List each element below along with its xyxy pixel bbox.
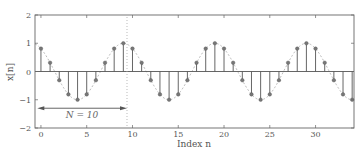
stem-marker	[176, 93, 180, 97]
stem-marker	[195, 61, 199, 65]
period-label: N = 10	[65, 110, 99, 120]
y-tick-label: −2	[19, 124, 31, 133]
stem-marker	[341, 93, 345, 97]
x-tick-label: 15	[173, 130, 183, 139]
stem-marker	[222, 47, 226, 51]
x-tick-label: 0	[38, 130, 43, 139]
stem-marker	[305, 41, 309, 45]
stem-marker	[131, 47, 135, 51]
stem-marker	[48, 61, 52, 65]
stem-marker	[57, 78, 61, 82]
x-tick-label: 10	[127, 130, 137, 139]
stem-marker	[277, 78, 281, 82]
stem-marker	[286, 61, 290, 65]
stem-marker	[295, 47, 299, 51]
stem-series	[35, 41, 354, 101]
stem-marker	[241, 78, 245, 82]
stem-marker	[112, 47, 116, 51]
stem-marker	[103, 61, 107, 65]
stem-marker	[39, 47, 43, 51]
stem-marker	[204, 47, 208, 51]
y-tick-label: 1	[26, 39, 31, 48]
x-tick-label: 20	[219, 130, 229, 139]
stem-marker	[231, 61, 235, 65]
stem-marker	[67, 93, 71, 97]
stem-marker	[213, 41, 217, 45]
x-tick-label: 5	[84, 130, 89, 139]
stem-marker	[94, 78, 98, 82]
stem-marker	[323, 61, 327, 65]
y-tick-label: 0	[26, 68, 31, 77]
y-tick-label: −1	[19, 96, 31, 105]
stem-chart: 051015202530−2−1012 Index n x[n] N = 10	[0, 0, 362, 157]
stem-marker	[314, 47, 318, 51]
stem-marker	[122, 41, 126, 45]
stem-marker	[332, 78, 336, 82]
y-axis-label: x[n]	[5, 63, 15, 81]
stem-marker	[85, 93, 89, 97]
arrow-right-icon	[120, 106, 127, 110]
stem-marker	[76, 98, 80, 102]
stem-marker	[186, 78, 190, 82]
stem-marker	[250, 93, 254, 97]
x-tick-label: 30	[310, 130, 320, 139]
x-tick-label: 25	[265, 130, 275, 139]
stem-marker	[149, 78, 153, 82]
stem-marker	[259, 98, 263, 102]
stem-marker	[167, 98, 171, 102]
stem-marker	[158, 93, 162, 97]
stem-marker	[268, 93, 272, 97]
x-axis-label: Index n	[177, 139, 211, 149]
arrow-left-icon	[37, 106, 44, 110]
stem-marker	[140, 61, 144, 65]
y-tick-label: 2	[26, 11, 31, 20]
